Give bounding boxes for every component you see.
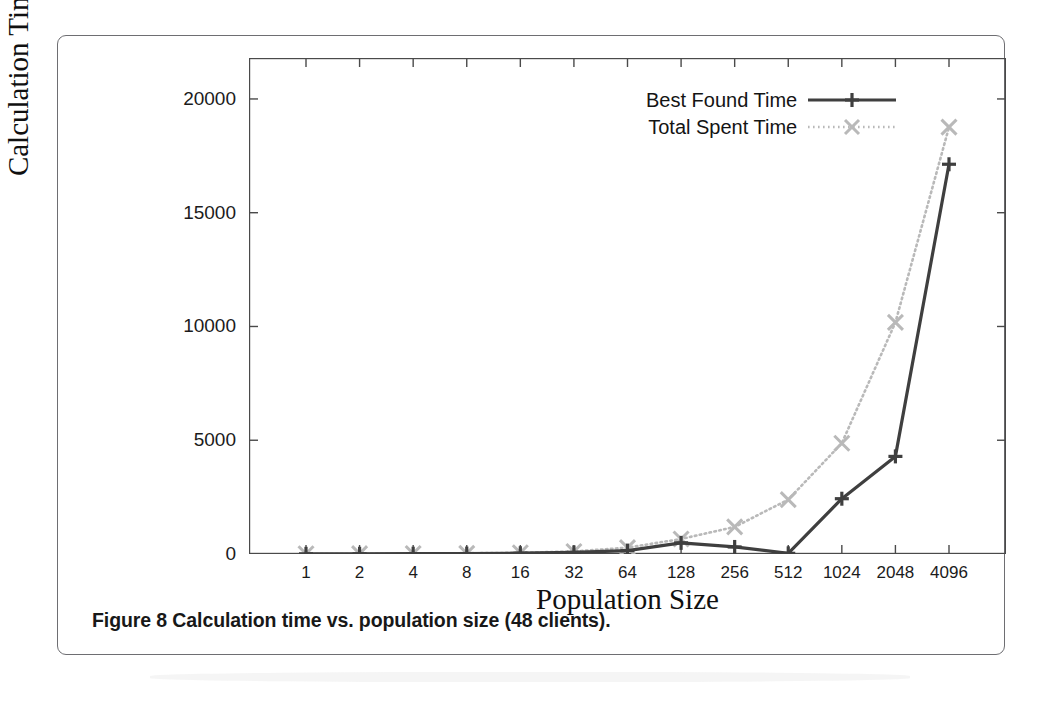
x-tick-label-16: 16 xyxy=(511,563,530,583)
legend-label: Total Spent Time xyxy=(648,116,797,139)
x-tick-label-4: 4 xyxy=(408,563,417,583)
x-tick-label-1024: 1024 xyxy=(823,563,861,583)
legend-item-2: Total Spent Time xyxy=(646,115,898,139)
x-tick-label-64: 64 xyxy=(618,563,637,583)
x-tick-label-8: 8 xyxy=(462,563,471,583)
legend-line-sample-plus xyxy=(806,90,898,110)
x-tick-label-2: 2 xyxy=(355,563,364,583)
y-tick-label-10000: 10000 xyxy=(58,315,236,337)
figure-card: Calculation Time [sec] 05000100001500020… xyxy=(57,35,1005,655)
scan-artifact-3 xyxy=(150,672,910,682)
x-tick-label-32: 32 xyxy=(564,563,583,583)
x-tick-label-128: 128 xyxy=(667,563,695,583)
x-tick-label-2048: 2048 xyxy=(876,563,914,583)
x-tick-label-1: 1 xyxy=(301,563,310,583)
x-tick-label-256: 256 xyxy=(720,563,748,583)
figure-caption: Figure 8 Calculation time vs. population… xyxy=(92,609,611,632)
y-axis-title: Calculation Time [sec] xyxy=(2,0,35,254)
chart-plot-region: Calculation Time [sec] 05000100001500020… xyxy=(58,36,1006,596)
y-tick-label-15000: 15000 xyxy=(58,202,236,224)
y-tick-label-20000: 20000 xyxy=(58,88,236,110)
legend-line-sample-cross xyxy=(806,117,898,137)
y-tick-label-5000: 5000 xyxy=(58,429,236,451)
legend-label: Best Found Time xyxy=(646,89,797,112)
chart-legend: Best Found TimeTotal Spent Time xyxy=(646,88,898,139)
legend-item-1: Best Found Time xyxy=(646,88,898,112)
x-tick-label-4096: 4096 xyxy=(930,563,968,583)
x-tick-label-512: 512 xyxy=(774,563,802,583)
y-tick-label-0: 0 xyxy=(58,543,236,565)
